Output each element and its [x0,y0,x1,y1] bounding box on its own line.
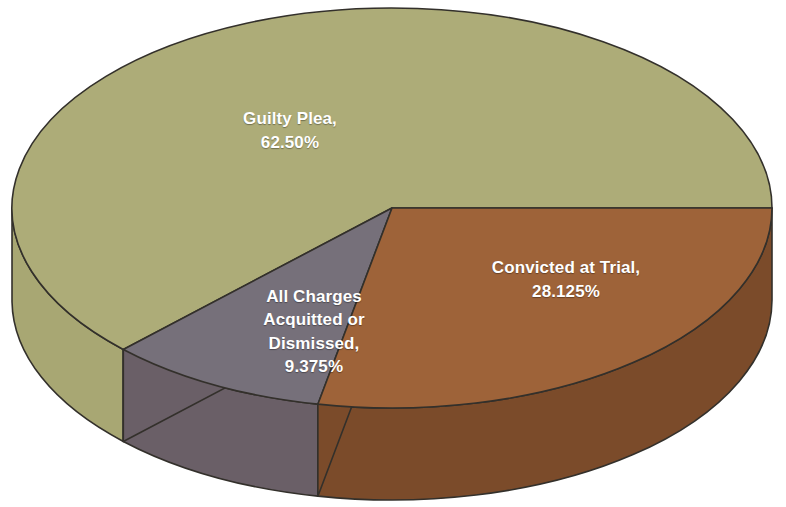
pie-chart-graphic [0,0,786,507]
pie-3d-geometry [12,8,772,500]
pie-chart-container: Guilty Plea, 62.50% Convicted at Trial, … [0,0,786,507]
